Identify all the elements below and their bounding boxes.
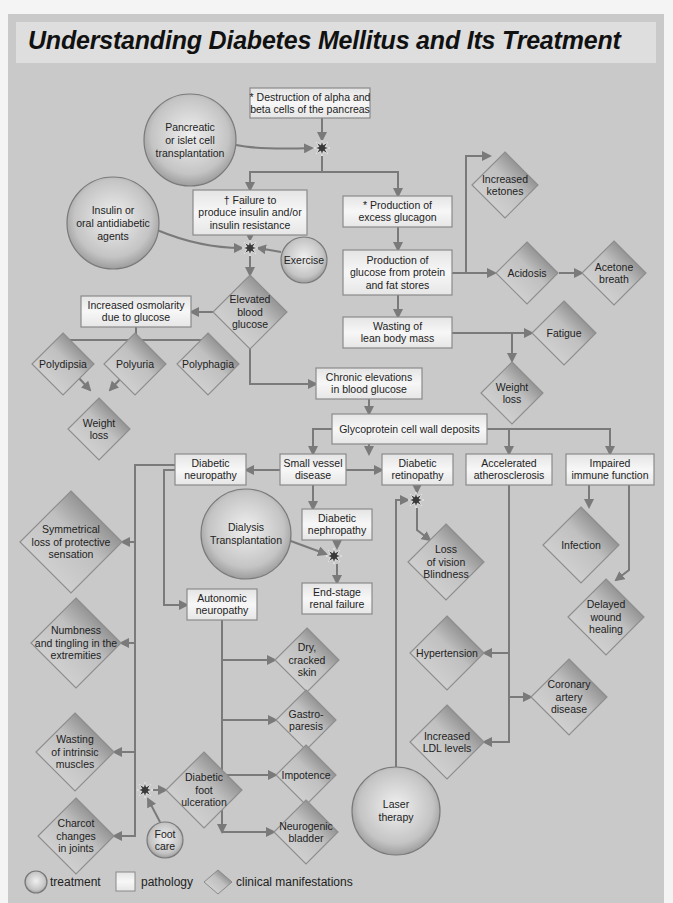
manifestation-node-m21: Wastingof intrinsicmuscles: [36, 713, 114, 791]
manifestation-node-m10: Weightloss: [68, 398, 130, 460]
pathology-node-p11: Diabeticretinopathy: [382, 454, 453, 485]
manifestation-label-line: of intrinsic: [51, 746, 98, 758]
manifestation-node-m2: Acidosis: [496, 242, 558, 304]
manifestation-label-line: and tingling in the: [35, 637, 117, 649]
manifestation-label-line: bladder: [288, 832, 324, 844]
manifestation-label-line: LDL levels: [423, 742, 472, 754]
manifestation-label-line: Acetone: [595, 261, 634, 273]
pathology-node-p6: Increased osmolaritydue to glucose: [81, 296, 191, 327]
treatment-label-line: oral antidiabetic: [76, 217, 150, 229]
manifestation-label-line: Impotence: [281, 769, 330, 781]
connector-arrow: [417, 508, 430, 540]
pathology-label-line: Impaired: [590, 457, 631, 469]
manifestation-node-m13: Lossof visionBlindness: [408, 524, 484, 600]
pathology-label-line: atherosclerosis: [474, 469, 545, 481]
manifestation-label-line: Elevated: [230, 293, 271, 305]
legend-pathology-label: pathology: [141, 875, 193, 889]
pathology-label-line: beta cells of the pancreas: [250, 103, 370, 115]
treatment-label-line: Transplantation: [210, 534, 282, 546]
manifestation-label-line: Loss: [435, 543, 457, 555]
manifestation-node-m24: Charcotchangesin joints: [38, 798, 114, 874]
manifestation-label-line: loss: [503, 393, 522, 405]
manifestation-node-m4: Fatigue: [532, 301, 596, 365]
pathology-node-p14: Diabeticnephropathy: [302, 509, 372, 540]
pathology-node-p3: * Production ofexcess glucagon: [343, 196, 452, 227]
pathology-label-line: nephropathy: [308, 524, 367, 536]
manifestation-label-line: Coronary: [547, 678, 591, 690]
pathology-label-line: Glycoprotein cell wall deposits: [339, 423, 480, 435]
pathology-label-line: retinopathy: [392, 469, 445, 481]
pathology-label-line: insulin resistance: [210, 219, 291, 231]
connector-arrow: [148, 799, 160, 822]
pathology-node-p5: Wasting oflean body mass: [343, 317, 452, 348]
manifestation-label-line: Blindness: [423, 568, 469, 580]
connector-arrow: [484, 485, 509, 742]
legend-treatment-label: treatment: [50, 875, 101, 889]
legend: treatment pathology clinical manifestati…: [25, 870, 353, 894]
connector-arrow: [396, 500, 408, 767]
manifestation-label-line: Delayed: [587, 598, 626, 610]
pathology-label-line: in blood glucose: [331, 383, 407, 395]
pathology-label-line: Autonomic: [197, 592, 247, 604]
treatment-label-line: agents: [97, 230, 129, 242]
manifestation-label-line: sensation: [49, 548, 94, 560]
manifestation-label-line: Fatigue: [546, 327, 581, 339]
manifestation-label-line: blood: [237, 306, 263, 318]
pathology-node-p10: Small vesseldisease: [280, 454, 346, 485]
treatment-label-line: care: [155, 840, 176, 852]
pathology-label-line: Diabetic: [399, 457, 437, 469]
manifestation-label-line: ulceration: [181, 796, 227, 808]
manifestation-label-line: Charcot: [58, 817, 95, 829]
manifestation-label-line: foot: [195, 784, 213, 796]
manifestation-node-m22: Diabeticfootulceration: [166, 752, 242, 828]
pathology-label-line: Chronic elevations: [326, 371, 412, 383]
manifestation-label-line: glucose: [232, 318, 268, 330]
manifestation-label-line: Hypertension: [416, 647, 478, 659]
treatment-label-line: Laser: [383, 798, 410, 810]
pathology-label-line: neuropathy: [196, 604, 249, 616]
treatment-node-t1: Pancreaticor islet celltransplantation: [144, 94, 236, 186]
manifestation-node-m12: Numbnessand tingling in theextremities: [31, 598, 121, 688]
pathology-label-line: Production of: [367, 254, 429, 266]
pathology-label-line: End-stage: [313, 586, 361, 598]
pathology-node-p7: Chronic elevationsin blood glucose: [316, 368, 422, 399]
manifestation-node-m14: Infection: [543, 507, 619, 583]
pathology-node-p15: End-stagerenal failure: [302, 583, 372, 614]
treatment-label-line: therapy: [378, 811, 414, 823]
manifestation-label-line: paresis: [289, 720, 323, 732]
pathology-node-p1: * Destruction of alpha andbeta cells of …: [250, 88, 371, 118]
intervention-star-icon: [242, 240, 258, 256]
treatment-label-line: Dialysis: [228, 521, 264, 533]
legend-treatment-icon: [25, 871, 47, 893]
treatment-label-line: or islet cell: [165, 134, 215, 146]
manifestation-label-line: in joints: [58, 842, 94, 854]
pathology-label-line: Diabetic: [318, 512, 356, 524]
pathology-label-line: glucose from protein: [350, 266, 445, 278]
legend-clinical-label: clinical manifestations: [236, 875, 353, 889]
pathology-label-line: Accelerated: [481, 457, 537, 469]
flowchart: Pancreaticor islet celltransplantationIn…: [0, 0, 673, 903]
manifestation-label-line: extremities: [51, 649, 102, 661]
manifestation-label-line: breath: [599, 273, 629, 285]
manifestation-node-m15: Delayedwoundhealing: [568, 579, 644, 655]
manifestation-label-line: artery: [556, 691, 584, 703]
treatment-node-t5: Footcare: [147, 822, 183, 858]
manifestation-label-line: Increased: [424, 730, 470, 742]
manifestation-label-line: ketones: [487, 185, 524, 197]
pathology-label-line: * Destruction of alpha and: [250, 91, 371, 103]
connector-arrow: [164, 470, 187, 605]
treatment-label-line: Insulin or: [92, 204, 135, 216]
pathology-node-p16: Autonomicneuropathy: [187, 589, 257, 620]
connector-arrow: [616, 485, 629, 580]
manifestation-label-line: Acidosis: [507, 267, 546, 279]
manifestation-node-m17: Hypertension: [410, 616, 484, 690]
pathology-node-p13: Impairedimmune function: [566, 454, 654, 485]
manifestation-node-m9: Polyphagia: [177, 333, 239, 395]
pathology-node-p9: Diabeticneuropathy: [175, 454, 246, 485]
manifestation-node-m20: IncreasedLDL levels: [410, 705, 484, 779]
manifestation-label-line: Numbness: [51, 624, 101, 636]
manifestation-label-line: cracked: [289, 654, 326, 666]
pathology-label-line: † Failure to: [224, 194, 277, 206]
pathology-label-line: due to glucose: [102, 311, 170, 323]
manifestation-label-line: of vision: [427, 556, 466, 568]
